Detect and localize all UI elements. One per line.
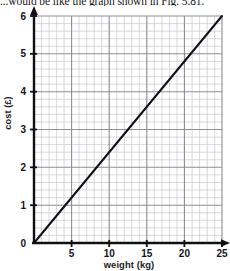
y-tick-label: 2	[20, 162, 26, 173]
graph-figure: 0 1 2 3 4 5 6 5 10 15 20 25 cost (£) wei…	[0, 0, 230, 271]
y-tick-label: 6	[20, 11, 26, 22]
x-tick-label: 10	[104, 248, 116, 259]
y-tick-label: 3	[20, 124, 26, 135]
x-tick-label: 20	[179, 248, 191, 259]
y-tick-label: 5	[20, 48, 26, 59]
y-tick-label: 1	[20, 200, 26, 211]
figure-page: ...would be like the graph shown in Fig.…	[0, 0, 230, 271]
x-tick-labels: 5 10 15 20 25	[69, 248, 228, 259]
arrow-up-icon	[30, 6, 38, 15]
chart-svg: 0 1 2 3 4 5 6 5 10 15 20 25	[0, 0, 230, 271]
y-tick-label: 4	[20, 86, 26, 97]
y-tick-label: 0	[20, 238, 26, 249]
y-tick-labels: 0 1 2 3 4 5 6	[20, 11, 26, 249]
y-axis-label: cost (£)	[3, 83, 13, 143]
x-tick-label: 15	[141, 248, 153, 259]
x-tick-label: 5	[69, 248, 75, 259]
x-tick-label: 25	[216, 248, 228, 259]
x-axis-label: weight (kg)	[34, 259, 224, 270]
